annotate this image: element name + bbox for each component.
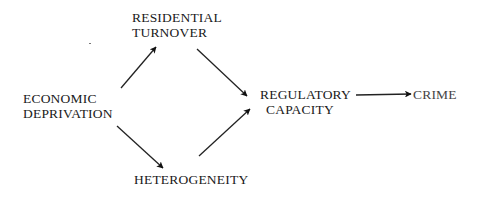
edge-residential-turnover-to-regulatory-capacity [197, 49, 247, 96]
node-economic-deprivation: ECONOMIC DEPRIVATION [23, 91, 113, 121]
node-economic-deprivation-line-2: DEPRIVATION [23, 106, 113, 121]
node-heterogeneity: HETEROGENEITY [134, 172, 248, 187]
edge-heterogeneity-to-regulatory-capacity [199, 109, 250, 156]
node-regulatory-capacity-line-1: REGULATORY [260, 87, 351, 102]
node-economic-deprivation-line-1: ECONOMIC [23, 91, 113, 106]
node-regulatory-capacity: REGULATORY CAPACITY [260, 87, 351, 117]
node-residential-turnover: RESIDENTIAL TURNOVER [132, 10, 222, 40]
edge-economic-deprivation-to-residential-turnover [121, 47, 156, 88]
node-residential-turnover-line-1: RESIDENTIAL [132, 10, 222, 25]
node-crime-line-1: CRIME [413, 87, 457, 102]
edge-regulatory-capacity-to-crime [356, 94, 411, 95]
node-regulatory-capacity-line-2: CAPACITY [260, 102, 351, 117]
node-residential-turnover-line-2: TURNOVER [132, 25, 222, 40]
edge-economic-deprivation-to-heterogeneity [117, 126, 163, 168]
node-crime: CRIME [413, 87, 457, 102]
node-heterogeneity-line-1: HETEROGENEITY [134, 172, 248, 187]
scan-speck [89, 43, 91, 44]
